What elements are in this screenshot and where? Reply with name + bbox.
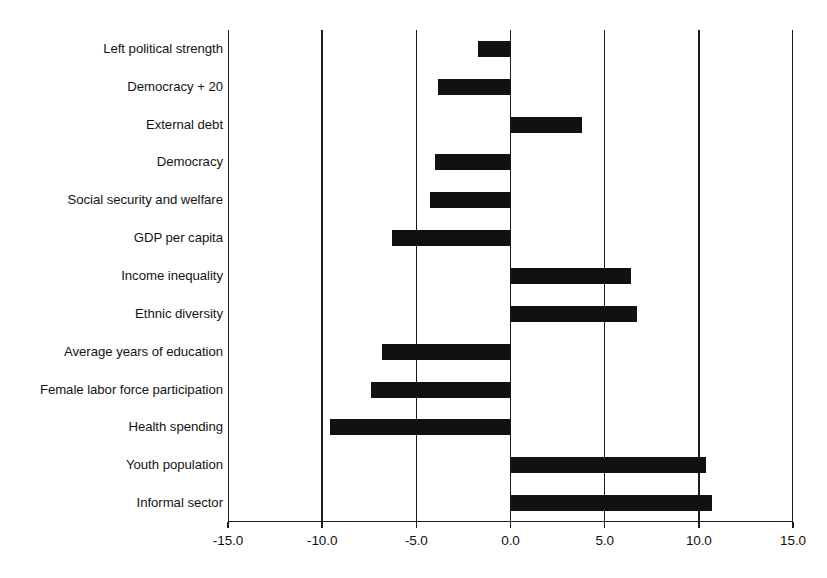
category-label: Income inequality bbox=[121, 268, 223, 283]
x-tick-label: 10.0 bbox=[686, 533, 712, 548]
category-label: Left political strength bbox=[103, 41, 223, 56]
category-label: Social security and welfare bbox=[67, 192, 223, 207]
gridline bbox=[416, 30, 418, 522]
x-tick-mark bbox=[698, 522, 699, 528]
x-tick-mark bbox=[604, 522, 605, 528]
bar bbox=[511, 457, 707, 473]
bar bbox=[430, 192, 511, 208]
x-tick-mark bbox=[792, 522, 793, 528]
bar bbox=[511, 306, 637, 322]
bar bbox=[330, 419, 511, 435]
category-label: Democracy bbox=[157, 154, 223, 169]
bar bbox=[382, 344, 510, 360]
bar bbox=[511, 495, 713, 511]
bar bbox=[371, 382, 510, 398]
category-label: Democracy + 20 bbox=[127, 79, 223, 94]
bar bbox=[511, 117, 583, 133]
gridline bbox=[698, 30, 700, 522]
x-tick-mark bbox=[416, 522, 417, 528]
category-label: Youth population bbox=[126, 457, 223, 472]
category-label: GDP per capita bbox=[134, 230, 223, 245]
category-label: Ethnic diversity bbox=[135, 306, 223, 321]
bar bbox=[478, 41, 511, 57]
bar bbox=[511, 268, 632, 284]
x-tick-label: -5.0 bbox=[405, 533, 428, 548]
bar bbox=[392, 230, 511, 246]
x-tick-mark bbox=[321, 522, 322, 528]
bar bbox=[435, 154, 510, 170]
bar-chart: -15.0-10.0-5.00.05.010.015.0 Left politi… bbox=[0, 0, 827, 578]
x-tick-label: 5.0 bbox=[595, 533, 613, 548]
x-tick-mark bbox=[227, 522, 228, 528]
x-tick-label: 0.0 bbox=[501, 533, 519, 548]
category-label: Average years of education bbox=[64, 344, 223, 359]
zero-axis-line bbox=[510, 30, 512, 522]
category-label: Female labor force participation bbox=[40, 382, 223, 397]
x-tick-label: -10.0 bbox=[307, 533, 337, 548]
category-label: External debt bbox=[146, 117, 223, 132]
gridline bbox=[321, 30, 323, 522]
category-label: Health spending bbox=[128, 419, 223, 434]
x-tick-mark bbox=[510, 522, 511, 528]
x-tick-label: -15.0 bbox=[213, 533, 243, 548]
category-label: Informal sector bbox=[137, 495, 223, 510]
bar bbox=[438, 79, 511, 95]
x-tick-label: 15.0 bbox=[780, 533, 806, 548]
